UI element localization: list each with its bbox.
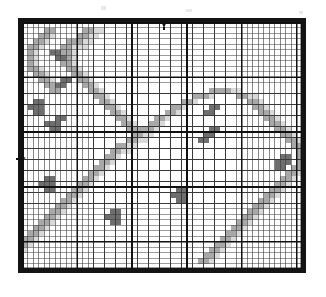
scan-speck-3 xyxy=(299,11,303,14)
pattern-chart-page xyxy=(0,0,326,297)
chart-border-frame xyxy=(18,18,306,273)
scan-speck-2 xyxy=(186,9,192,12)
scan-speck-1 xyxy=(101,6,106,10)
chart-grid-surface[interactable] xyxy=(22,22,302,269)
left-centre-arrow-icon xyxy=(19,155,26,161)
left-centre-arrow-stem-icon xyxy=(16,158,20,160)
top-centre-arrow-stem-icon xyxy=(163,27,165,30)
pattern-grid-canvas[interactable] xyxy=(22,22,302,269)
